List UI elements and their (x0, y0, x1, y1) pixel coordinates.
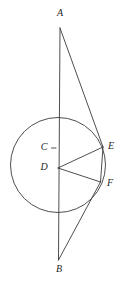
geometry-svg: A B C D E F (0, 0, 124, 283)
segment-AE-line (60, 28, 103, 147)
geometry-figure-canvas: A B C D E F (0, 0, 124, 283)
vertex-label-C: C (41, 141, 48, 152)
vertex-label-E: E (107, 140, 114, 151)
vertex-label-A: A (56, 7, 64, 18)
vertex-label-D: D (39, 161, 48, 172)
vertex-label-B: B (56, 263, 62, 274)
segment-FB-line (59, 182, 101, 260)
segment-AB-line (59, 28, 61, 260)
vertex-label-F: F (106, 177, 114, 188)
segment-EF-line (101, 147, 104, 182)
segment-DE-line (58, 147, 103, 168)
segment-DF-line (58, 168, 101, 182)
